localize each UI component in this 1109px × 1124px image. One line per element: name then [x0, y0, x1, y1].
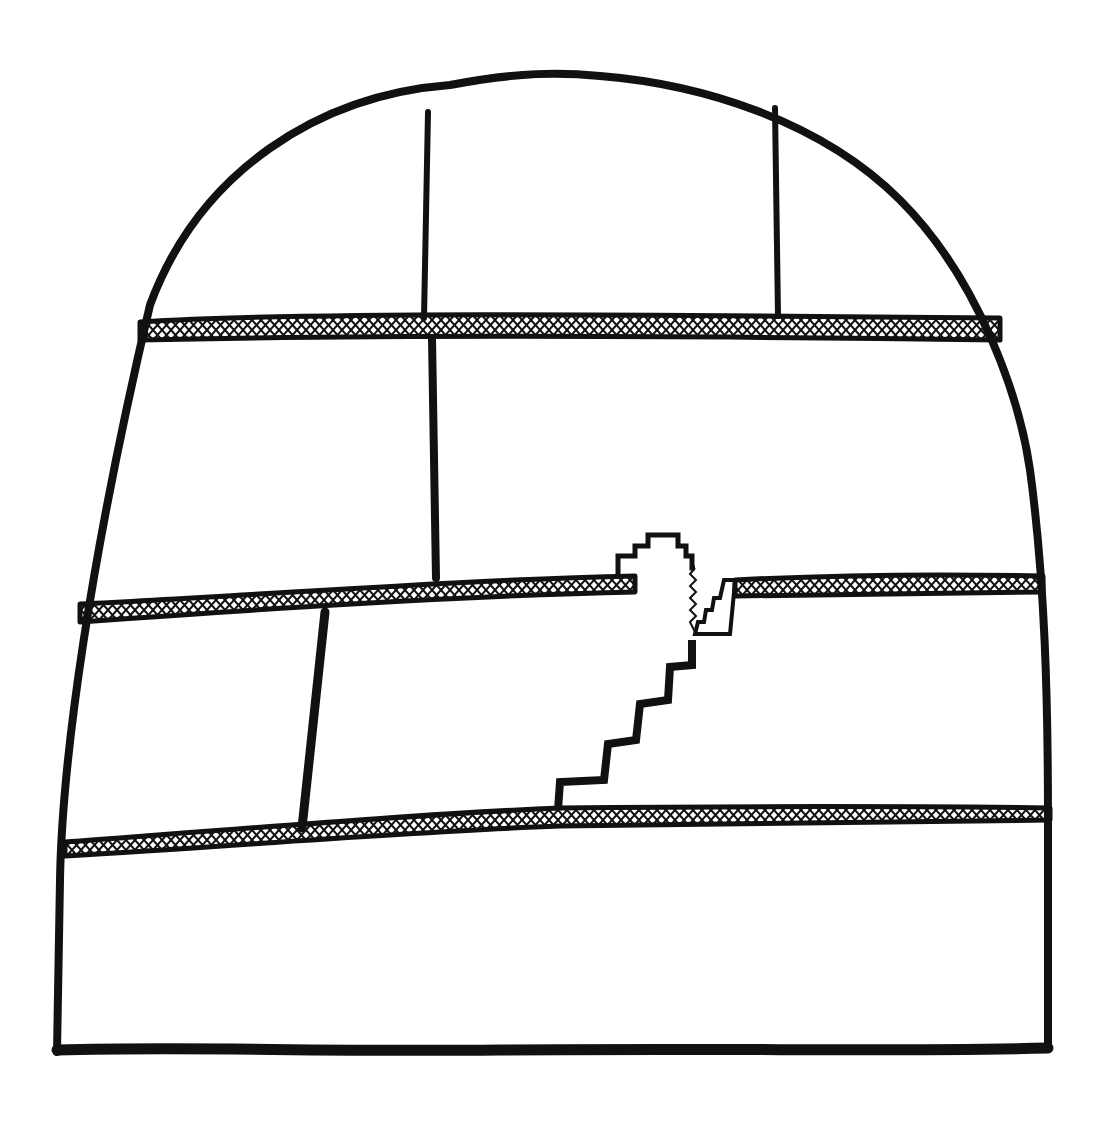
lower-band [65, 807, 1050, 857]
arched-outline [57, 74, 1048, 1052]
top-right-joint [775, 108, 778, 316]
upper-band [140, 315, 1000, 340]
top-left-joint [424, 112, 428, 318]
stepped-fracture [618, 535, 695, 576]
fracture-right-block [695, 580, 735, 634]
bottom-edge [57, 1048, 1048, 1050]
fracture-jagged-edge [690, 568, 696, 632]
middle-band-left [80, 576, 635, 622]
middle-joint [432, 338, 436, 578]
strata-illustration [0, 0, 1109, 1124]
middle-band-right [735, 575, 1043, 596]
fracture-steps [558, 640, 692, 810]
lower-joint [302, 612, 325, 828]
diagram-canvas [0, 0, 1109, 1124]
